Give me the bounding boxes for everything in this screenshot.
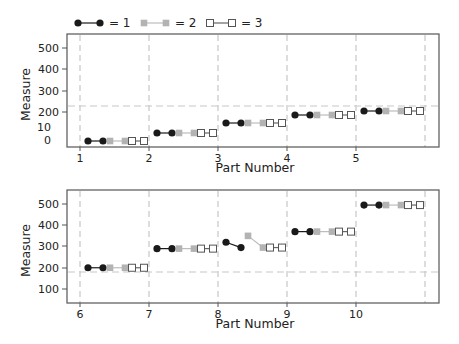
marker-op1-icon [375,201,382,208]
legend-label: = 1 [109,16,131,30]
y-tick-label: 100 [38,283,59,296]
marker-op2-icon [122,138,129,145]
part-group-6 [84,264,147,271]
legend-label: = 3 [241,16,263,30]
marker-op1-icon [237,119,244,126]
x-tick-label: 10 [349,308,363,321]
marker-op3-icon [279,120,286,127]
marker-op3-icon [198,130,205,137]
marker-op2-icon [191,245,198,252]
x-axis-label: Part Number [216,160,296,175]
marker-op1-icon [375,107,382,114]
y-tick-label: 300 [38,85,59,98]
legend-label: = 2 [175,16,197,30]
x-tick-label: 5 [353,152,360,165]
marker-op3-icon [210,245,217,252]
marker-op1-icon [99,137,106,144]
marker-op1-icon [360,107,367,114]
marker-op2-icon [329,112,336,119]
marker-op2-icon [383,202,390,209]
marker-op3-icon [198,245,205,252]
marker-op2-icon [245,120,252,127]
marker-op2-icon [398,108,405,115]
legend-entry-1: = 1 [74,16,130,30]
marker-op2-icon [176,245,183,252]
marker-op2-icon [176,130,183,137]
y-tick-label: 200 [38,262,59,275]
marker-op1-icon [306,111,313,118]
marker-op1-icon [84,264,91,271]
plot-frame [67,34,439,147]
marker-op2-icon [314,112,321,119]
y-tick-label: 500 [38,198,59,211]
marker-op3-icon [141,138,148,145]
y-axis-label: Measure [18,68,33,121]
marker-op2-icon [314,228,321,235]
marker-op1-icon [84,137,91,144]
legend-marker-icon [96,19,103,26]
marker-op3-icon [129,264,136,271]
part-group-3 [222,119,285,126]
marker-op3-icon [267,120,274,127]
marker-op3-icon [267,244,274,251]
marker-op2-icon [191,130,198,137]
marker-op3-icon [336,228,343,235]
marker-op2-icon [107,138,114,145]
marker-op2-icon [260,244,267,251]
marker-op3-icon [141,264,148,271]
legend-marker-icon [74,19,81,26]
marker-op3-icon [336,112,343,119]
chart: = 1= 2= 3 12345500400300200100Part Numbe… [0,0,459,344]
legend-marker-icon [229,20,236,27]
y-tick-label: 500 [38,42,59,55]
legend-marker-icon [163,20,170,27]
y-tick-label: 200 [38,106,59,119]
marker-op3-icon [405,108,412,115]
part-group-7 [153,245,216,252]
x-tick-label: 7 [146,308,153,321]
marker-op3-icon [129,138,136,145]
y-tick-label: 300 [38,240,59,253]
part-group-4 [291,111,354,118]
marker-op1-icon [291,111,298,118]
x-tick-label: 1 [77,152,84,165]
marker-op3-icon [348,228,355,235]
marker-op3-icon [405,202,412,209]
part-group-5 [360,107,423,114]
marker-op2-icon [260,120,267,127]
marker-op2-icon [122,264,129,271]
marker-op1-icon [222,239,229,246]
chart-panel-bottom: 678910500400300200100Part NumberMeasure [18,190,439,331]
marker-op1-icon [153,129,160,136]
marker-op3-icon [417,108,424,115]
x-axis-label: Part Number [216,316,296,331]
y-tick-label: 400 [38,219,59,232]
marker-op1-icon [153,245,160,252]
marker-op2-icon [107,264,114,271]
y-tick-label: 0 [44,134,51,147]
legend: = 1= 2= 3 [74,16,262,30]
marker-op2-icon [398,202,405,209]
legend-marker-icon [141,20,148,27]
legend-entry-2: = 2 [141,16,197,30]
marker-op1-icon [306,228,313,235]
legend-entry-3: = 3 [207,16,263,30]
x-tick-label: 2 [146,152,153,165]
marker-op1-icon [237,244,244,251]
marker-op3-icon [210,130,217,137]
marker-op1-icon [168,129,175,136]
legend-marker-icon [207,20,214,27]
chart-panel-top: 12345500400300200100Part NumberMeasure [18,34,439,175]
part-group-8 [222,233,285,252]
y-tick-label: 400 [38,63,59,76]
marker-op3-icon [279,244,286,251]
y-tick-label: 10 [37,121,51,134]
marker-op1-icon [222,119,229,126]
marker-op2-icon [329,228,336,235]
marker-op3-icon [348,112,355,119]
marker-op1-icon [99,264,106,271]
part-group-10 [360,201,423,208]
marker-op1-icon [291,228,298,235]
part-group-2 [153,129,216,136]
marker-op2-icon [383,108,390,115]
